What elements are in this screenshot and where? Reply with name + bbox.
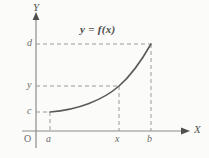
y-tick-label-d: d	[27, 38, 32, 48]
x-axis-label: X	[194, 124, 201, 135]
function-curve	[50, 44, 151, 112]
x-axis-arrowhead	[181, 127, 190, 134]
y-tick-label-y: y	[27, 80, 31, 90]
origin-label: O	[24, 134, 31, 144]
y-axis-label: Y	[33, 2, 39, 13]
x-tick-label-x: x	[115, 134, 119, 144]
x-tick-label-a: a	[46, 134, 51, 144]
x-tick-label-b: b	[147, 134, 152, 144]
y-tick-label-c: c	[27, 106, 31, 116]
function-label: y = f(x)	[80, 24, 116, 35]
y-axis-arrowhead	[33, 12, 40, 20]
function-graph-figure: Y X O y = f(x) d y c a x b	[0, 0, 209, 158]
